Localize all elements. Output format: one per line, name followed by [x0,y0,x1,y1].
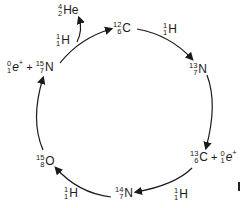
carbon-12-node: 126 C [113,21,131,35]
arrow-he-out [77,18,81,42]
arrow-o15-n15 [37,78,44,150]
nitrogen-13-node: 137 N [189,62,207,76]
positron: 01 e+ [7,60,23,74]
proton-input-2: 11 H [163,22,177,36]
helium-4-output: 42 He [58,3,79,17]
proton-input-3: 11 H [174,187,188,201]
proton-input-4: 11 H [64,186,78,200]
oxygen-15-node: 158 O [36,154,55,168]
carbon-13-positron-node: 136 C + 01 e+ [190,150,237,164]
positron-nitrogen-15-node: 01 e+ + 157 N [7,60,54,74]
nitrogen-14-node: 147 N [115,186,133,200]
proton-input-1: 11 H [56,33,70,47]
positron: 01 e+ [220,150,236,164]
arrow-n13-c13 [206,75,212,148]
edge-mark [238,182,240,191]
